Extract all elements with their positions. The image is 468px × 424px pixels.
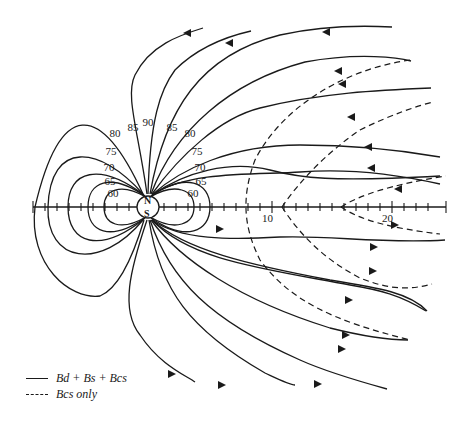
lat-label-90: 90 [143,116,155,128]
lat-label-70-left: 70 [104,161,116,173]
legend-label-total-field: Bd + Bs + Bcs [56,371,127,386]
direction-arrows [168,28,402,389]
lat-label-75-left: 75 [106,145,118,157]
lat-label-85-right: 85 [167,121,179,133]
legend-item-solid: Bd + Bs + Bcs [26,370,127,386]
north-pole-label: N [144,195,152,206]
field-line-diagram: 10 20 [0,0,468,424]
lat-label-65-right: 65 [196,175,208,187]
open-field-lines-lower [129,220,445,389]
lat-label-85-left: 85 [128,121,140,133]
lat-label-60-right: 60 [188,187,200,199]
closed-field-lines [34,125,440,296]
legend-label-bcs-only: Bcs only [56,387,97,402]
lat-label-65-left: 65 [105,175,117,187]
lat-label-75-right: 75 [192,145,204,157]
south-pole-label: S [144,208,150,219]
open-field-lines-upper [131,26,440,195]
legend: Bd + Bs + Bcs Bcs only [26,370,127,402]
latitude-labels: 90 85 85 80 80 75 75 70 70 65 65 60 60 [104,116,208,199]
lat-label-70-right: 70 [195,161,207,173]
tick-label-10: 10 [262,212,274,224]
lat-label-80-right: 80 [185,127,197,139]
dashed-line-swatch [26,394,48,395]
legend-item-dashed: Bcs only [26,386,127,402]
lat-label-60-left: 60 [108,187,120,199]
lat-label-80-left: 80 [110,127,122,139]
solid-line-swatch [26,378,48,379]
